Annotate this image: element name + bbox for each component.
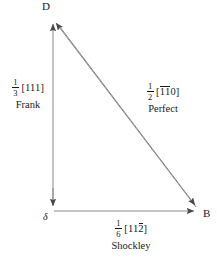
bracket-close: ] xyxy=(40,82,44,93)
fraction-one-half: 1 2 xyxy=(147,82,154,102)
bracket-close: ] xyxy=(144,223,148,234)
vertex-label-d: D xyxy=(42,1,50,12)
dislocation-reaction-figure: D B δ 1 3 [111] Frank 1 2 [110] Perfect xyxy=(0,0,217,260)
annotation-perfect: 1 2 [110] Perfect xyxy=(134,82,192,115)
miller-indices-shockley: [112] xyxy=(124,224,147,235)
miller-indices-frank: [111] xyxy=(21,83,44,94)
fraction-numerator: 1 xyxy=(12,78,18,87)
bracket-close: ] xyxy=(176,86,180,97)
fraction-denominator: 3 xyxy=(12,89,18,98)
vertex-label-b: B xyxy=(203,208,210,219)
fraction-denominator: 6 xyxy=(115,230,121,239)
index-3-overbar: 2 xyxy=(138,224,143,235)
fraction-numerator: 1 xyxy=(147,82,153,91)
burgers-vector-perfect: 1 2 [110] xyxy=(134,82,192,102)
vertex-label-delta: δ xyxy=(43,212,48,222)
fraction-denominator: 2 xyxy=(147,93,153,102)
dislocation-type-perfect: Perfect xyxy=(134,104,192,115)
edge-perfect-reverse-arrow xyxy=(60,27,195,205)
dislocation-type-frank: Frank xyxy=(3,100,53,111)
fraction-one-third: 1 3 xyxy=(12,78,19,98)
burgers-vector-shockley: 1 6 [112] xyxy=(100,219,162,239)
dislocation-type-shockley: Shockley xyxy=(100,241,162,252)
annotation-shockley: 1 6 [112] Shockley xyxy=(100,219,162,252)
fraction-one-sixth: 1 6 xyxy=(115,219,122,239)
index-2-overbar: 1 xyxy=(165,87,170,98)
annotation-frank: 1 3 [111] Frank xyxy=(3,78,53,111)
burgers-vector-frank: 1 3 [111] xyxy=(3,78,53,98)
fraction-numerator: 1 xyxy=(115,219,121,228)
miller-indices-perfect: [110] xyxy=(156,87,179,98)
